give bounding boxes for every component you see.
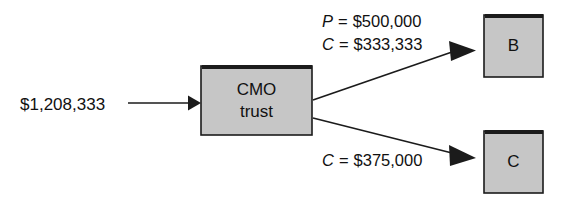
tranche-c-node: C [484, 130, 543, 193]
flow-diagram-canvas: $1,208,333 CMO trust P=$500,000 C=$333,3… [0, 0, 584, 209]
cmo-trust-node: CMO trust [201, 65, 312, 135]
tranche-b-node: B [484, 14, 543, 77]
tranche-b-principal-equals: = [338, 12, 348, 30]
tranche-b-coupon-equals: = [339, 35, 349, 53]
input-amount-label: $1,208,333 [20, 95, 105, 114]
tranche-c-coupon-symbol: C [322, 151, 334, 169]
input-arrow-head [188, 96, 201, 111]
tranche-b-coupon-value: $333,333 [354, 35, 423, 53]
tranche-c-coupon-value: $375,000 [354, 151, 423, 169]
cmo-trust-box-top-band [202, 65, 312, 69]
branch-line-to-b [313, 52, 452, 100]
cmo-cash-flow-diagram: $1,208,333 CMO trust P=$500,000 C=$333,3… [0, 0, 584, 209]
tranche-b-label: B [508, 36, 519, 55]
tranche-b-coupon-label: C=$333,333 [322, 35, 422, 53]
tranche-c-coupon-equals: = [339, 151, 349, 169]
cmo-trust-label-line2: trust [240, 102, 273, 121]
tranche-b-principal-label: P=$500,000 [322, 12, 421, 30]
cmo-trust-box [201, 66, 312, 135]
tranche-c-label: C [507, 152, 519, 171]
tranche-b-principal-value: $500,000 [353, 12, 422, 30]
cmo-trust-label-line1: CMO [237, 80, 277, 99]
branch-line-to-c [313, 118, 452, 153]
tranche-b-coupon-symbol: C [322, 35, 334, 53]
tranche-c-coupon-label: C=$375,000 [322, 151, 422, 169]
tranche-b-principal-symbol: P [322, 12, 333, 30]
branch-arrow-head-c [449, 145, 476, 166]
tranche-b-box-top-band [485, 14, 543, 18]
branch-arrow-head-b [449, 41, 476, 61]
tranche-c-box-top-band [485, 130, 543, 134]
